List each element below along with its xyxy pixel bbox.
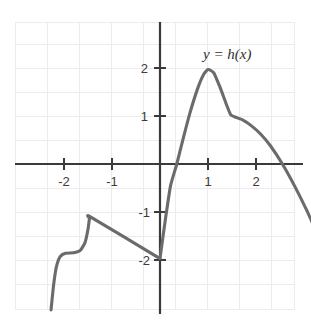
x-tick-label-neg2: -2	[58, 174, 70, 189]
y-tick-label-2: 2	[141, 61, 148, 76]
x-tick-label-1: 1	[204, 174, 211, 189]
graph-figure: -2 -1 1 2 2 1 -1 -2 y = h(x)	[0, 0, 311, 321]
x-tick-label-neg1: -1	[106, 174, 118, 189]
y-tick-label-1: 1	[141, 109, 148, 124]
curve-group	[51, 69, 311, 309]
x-tick-label-2: 2	[252, 174, 259, 189]
curve-label-annotation: y = h(x)	[201, 46, 251, 63]
axes	[15, 22, 303, 314]
y-tick-label-neg1: -1	[138, 205, 150, 220]
coordinate-plane: -2 -1 1 2 2 1 -1 -2 y = h(x)	[0, 0, 311, 321]
y-tick-label-neg2: -2	[138, 253, 150, 268]
